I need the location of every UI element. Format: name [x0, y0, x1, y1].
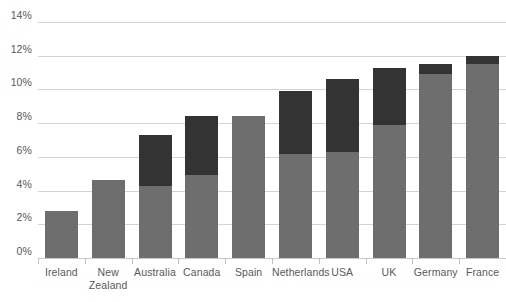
bar-segment-lower [326, 152, 359, 258]
bar-spain [232, 116, 265, 258]
x-axis-labels: IrelandNewZealandAustraliaCanadaSpainNet… [38, 266, 506, 302]
bar-segment-lower [92, 180, 125, 258]
x-axis-label-line: USA [319, 266, 366, 279]
x-axis-label-line: France [459, 266, 506, 279]
x-axis-label-line: Zealand [85, 279, 132, 292]
x-axis-label-germany: Germany [412, 266, 459, 279]
x-axis-label-line: Ireland [38, 266, 85, 279]
y-axis-tick-label: 0% [17, 246, 32, 257]
bar-germany [419, 64, 452, 258]
y-axis-tick-label: 4% [17, 179, 32, 190]
bar-netherlands [279, 91, 312, 258]
bar-ireland [45, 211, 78, 258]
x-axis-tick [319, 258, 320, 264]
x-axis-tick [132, 258, 133, 264]
x-axis-tick [85, 258, 86, 264]
x-axis-tick [225, 258, 226, 264]
x-axis-label-line: Australia [132, 266, 179, 279]
bar-segment-lower [139, 186, 172, 258]
x-axis-label-line: Netherlands [272, 266, 319, 279]
y-axis-tick-label: 8% [17, 111, 32, 122]
plot-area [38, 22, 506, 258]
x-axis-label-line: New [85, 266, 132, 279]
x-axis-label-new-zealand: NewZealand [85, 266, 132, 291]
bar-france [466, 56, 499, 258]
x-axis-ticks [38, 258, 506, 264]
bar-segment-upper [279, 91, 312, 153]
x-axis-label-ireland: Ireland [38, 266, 85, 279]
x-axis-tick [178, 258, 179, 264]
stacked-bar-chart: 0%2%4%6%8%10%12%14% IrelandNewZealandAus… [0, 0, 506, 302]
bar-segment-lower [232, 116, 265, 258]
x-axis-label-line: Spain [225, 266, 272, 279]
y-axis: 0%2%4%6%8%10%12%14% [0, 0, 38, 302]
x-axis-label-uk: UK [366, 266, 413, 279]
bar-uk [373, 68, 406, 258]
x-axis-label-france: France [459, 266, 506, 279]
bar-usa [326, 79, 359, 258]
bar-segment-upper [373, 68, 406, 125]
x-axis-tick [412, 258, 413, 264]
bar-segment-upper [466, 56, 499, 64]
bar-segment-upper [326, 79, 359, 151]
bar-segment-upper [419, 64, 452, 74]
bar-segment-upper [139, 135, 172, 186]
bar-segment-lower [373, 125, 406, 258]
y-axis-tick-label: 2% [17, 212, 32, 223]
y-axis-tick-label: 12% [11, 44, 32, 55]
x-axis-tick [272, 258, 273, 264]
bar-segment-lower [419, 74, 452, 258]
x-axis-label-line: Canada [178, 266, 225, 279]
bar-new-zealand [92, 180, 125, 258]
x-axis-tick [366, 258, 367, 264]
bar-segment-lower [279, 154, 312, 259]
x-axis-label-usa: USA [319, 266, 366, 279]
x-axis-label-line: UK [366, 266, 413, 279]
bar-australia [139, 135, 172, 258]
bar-segment-lower [466, 64, 499, 258]
y-axis-tick-label: 6% [17, 145, 32, 156]
bars-layer [38, 22, 506, 258]
x-axis-label-spain: Spain [225, 266, 272, 279]
bar-segment-lower [185, 175, 218, 258]
x-axis-label-canada: Canada [178, 266, 225, 279]
y-axis-tick-label: 10% [11, 77, 32, 88]
x-axis-label-netherlands: Netherlands [272, 266, 319, 279]
bar-segment-upper [185, 116, 218, 175]
x-axis-tick [38, 258, 39, 264]
x-axis-label-line: Germany [412, 266, 459, 279]
x-axis-tick [459, 258, 460, 264]
bar-canada [185, 116, 218, 258]
x-axis-label-australia: Australia [132, 266, 179, 279]
bar-segment-lower [45, 211, 78, 258]
y-axis-tick-label: 14% [11, 10, 32, 21]
